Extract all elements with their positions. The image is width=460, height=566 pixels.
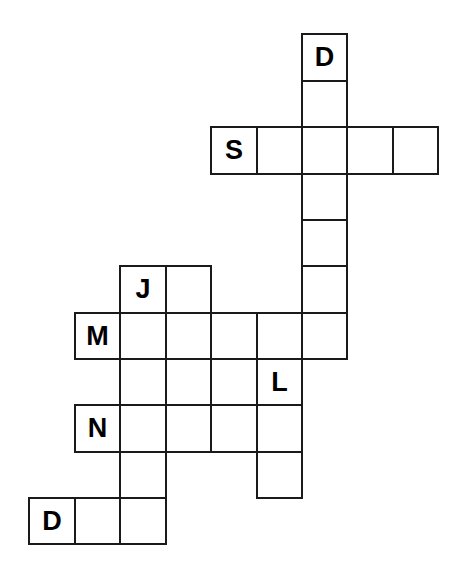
crossword-cell-empty[interactable] xyxy=(301,80,348,128)
crossword-cell-filled[interactable]: M xyxy=(74,312,121,360)
crossword-cell-empty[interactable] xyxy=(210,404,258,453)
crossword-cell-empty[interactable] xyxy=(165,404,212,453)
crossword-puzzle: DSJMLND xyxy=(0,0,460,566)
crossword-cell-letter: J xyxy=(135,276,150,303)
crossword-cell-empty[interactable] xyxy=(119,497,167,545)
crossword-cell-empty[interactable] xyxy=(256,404,303,453)
crossword-cell-letter: N xyxy=(88,415,108,442)
crossword-cell-empty[interactable] xyxy=(165,312,212,360)
crossword-cell-empty[interactable] xyxy=(119,358,167,406)
crossword-cell-letter: S xyxy=(225,137,243,164)
crossword-cell-empty[interactable] xyxy=(165,265,212,314)
crossword-cell-empty[interactable] xyxy=(119,404,167,453)
crossword-cell-empty[interactable] xyxy=(256,451,303,499)
crossword-cell-empty[interactable] xyxy=(301,312,348,360)
crossword-cell-empty[interactable] xyxy=(301,126,348,175)
crossword-cell-empty[interactable] xyxy=(301,265,348,314)
crossword-cell-empty[interactable] xyxy=(346,126,394,175)
crossword-cell-letter: D xyxy=(315,44,335,71)
crossword-cell-empty[interactable] xyxy=(119,451,167,499)
crossword-cell-letter: D xyxy=(42,508,62,535)
crossword-cell-letter: L xyxy=(271,369,288,396)
crossword-cell-empty[interactable] xyxy=(301,173,348,221)
crossword-cell-empty[interactable] xyxy=(210,312,258,360)
crossword-cell-filled[interactable]: N xyxy=(74,404,121,453)
crossword-cell-filled[interactable]: L xyxy=(256,358,303,406)
crossword-grid[interactable]: DSJMLND xyxy=(0,0,460,566)
crossword-cell-empty[interactable] xyxy=(256,312,303,360)
crossword-cell-empty[interactable] xyxy=(165,358,212,406)
crossword-cell-empty[interactable] xyxy=(301,219,348,267)
crossword-cell-empty[interactable] xyxy=(74,497,121,545)
crossword-cell-filled[interactable]: D xyxy=(28,497,76,545)
crossword-cell-empty[interactable] xyxy=(119,312,167,360)
crossword-cell-empty[interactable] xyxy=(256,126,303,175)
crossword-cell-empty[interactable] xyxy=(392,126,439,175)
crossword-cell-filled[interactable]: D xyxy=(301,33,348,82)
crossword-cell-filled[interactable]: S xyxy=(210,126,258,175)
crossword-cell-filled[interactable]: J xyxy=(119,265,167,314)
crossword-cell-letter: M xyxy=(86,323,109,350)
